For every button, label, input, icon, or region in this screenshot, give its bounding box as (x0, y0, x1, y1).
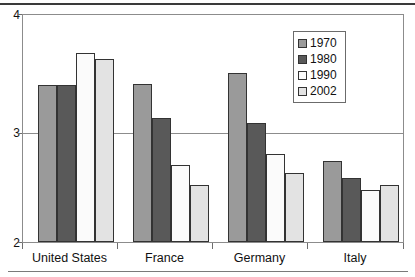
legend-item-2002: 2002 (298, 83, 345, 99)
top-divider-rule (0, 3, 415, 5)
bar-germany-1970 (228, 73, 247, 242)
x-tick-mark-3 (307, 243, 308, 249)
y-tick-label-4: 4 (4, 9, 20, 21)
legend-item-1980: 1980 (298, 51, 345, 67)
bar-italy-1980 (342, 178, 361, 242)
legend-swatch-1990 (298, 71, 307, 80)
bar-united-states-1970 (38, 85, 57, 242)
legend-label-2002: 2002 (310, 85, 337, 97)
bottom-divider-rule (8, 271, 408, 272)
bar-france-1970 (133, 84, 152, 242)
bar-france-1990 (171, 165, 190, 242)
y-tick-label-2: 2 (4, 237, 20, 249)
legend-label-1970: 1970 (310, 37, 337, 49)
x-tick-mark-1 (117, 243, 118, 249)
bar-italy-2002 (380, 185, 399, 242)
x-label-france: France (117, 250, 212, 266)
bar-series-container (23, 15, 403, 242)
x-tick-mark-2 (212, 243, 213, 249)
x-label-germany: Germany (212, 250, 307, 266)
x-tick-mark-4 (403, 243, 404, 249)
legend-swatch-1980 (298, 55, 307, 64)
chart-legend: 1970 1980 1990 2002 (293, 31, 346, 103)
legend-label-1990: 1990 (310, 69, 337, 81)
bar-italy-1970 (323, 161, 342, 242)
bar-chart-figure: 4 3 2 (0, 0, 415, 277)
x-axis-labels: United States France Germany Italy (22, 250, 404, 270)
y-axis: 4 3 2 (0, 0, 20, 277)
plot-area (22, 14, 404, 243)
x-tick-mark-0 (22, 243, 23, 249)
bar-germany-1980 (247, 123, 266, 242)
bar-france-2002 (190, 185, 209, 242)
bar-germany-2002 (285, 173, 304, 242)
bar-united-states-1990 (76, 53, 95, 242)
legend-swatch-1970 (298, 39, 307, 48)
x-label-united-states: United States (22, 250, 117, 266)
legend-item-1970: 1970 (298, 35, 345, 51)
bar-germany-1990 (266, 154, 285, 242)
x-label-italy: Italy (307, 250, 403, 266)
bar-united-states-2002 (95, 59, 114, 242)
legend-swatch-2002 (298, 87, 307, 96)
legend-label-1980: 1980 (310, 53, 337, 65)
legend-item-1990: 1990 (298, 67, 345, 83)
x-axis-ticks (22, 243, 404, 250)
bar-united-states-1980 (57, 85, 76, 242)
bar-france-1980 (152, 118, 171, 242)
bar-italy-1990 (361, 190, 380, 242)
